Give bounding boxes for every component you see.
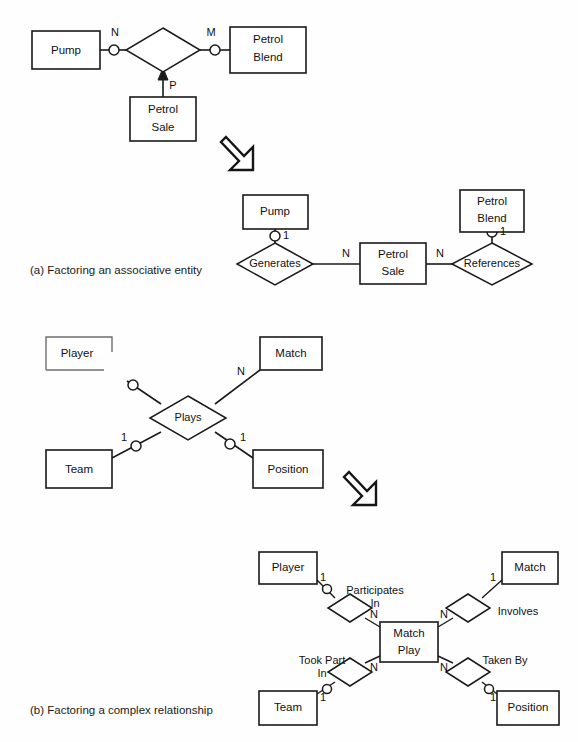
caption-b: (b) Factoring a complex relationship (30, 704, 213, 716)
cardinality-label-1: 1 (490, 571, 496, 583)
relationship-label: Plays (175, 411, 202, 423)
optional-marker-icon (270, 231, 280, 241)
relationship-label: Generates (249, 257, 301, 269)
cardinality-label-n: N (370, 661, 378, 673)
entity-label-line2: Sale (381, 265, 404, 277)
entity-label: Pump (260, 205, 290, 217)
relationship-participates-in: Participates In (328, 584, 404, 622)
entity-label-line2: Blend (477, 212, 506, 224)
diagram-b-before: Plays Player Match Team Position N 1 1 (46, 337, 323, 488)
cardinality-label-n: N (370, 608, 378, 620)
relationship-involves: Involves (446, 594, 539, 622)
relationship-took-part-in: Took Part In (299, 654, 372, 686)
entity-position: Position (497, 691, 559, 725)
cardinality-label-1: 1 (500, 225, 506, 237)
optional-marker-icon (210, 45, 220, 55)
entity-pump: Pump (32, 31, 100, 69)
cardinality-label-n: N (342, 247, 350, 259)
relationship-diamond-unlabeled (126, 28, 200, 72)
relationship-generates: Generates (237, 243, 313, 285)
entity-match: Match (260, 337, 322, 370)
relationship-plays: Plays (150, 396, 226, 440)
cardinality-label-n: N (440, 608, 448, 620)
cardinality-label-n: N (436, 247, 444, 259)
entity-label: Match (275, 347, 306, 359)
entity-match: Match (502, 552, 558, 584)
cardinality-label-1: 1 (320, 571, 326, 583)
optional-marker-icon (109, 45, 119, 55)
entity-label: Match (514, 561, 545, 573)
cardinality-label-1: 1 (490, 691, 496, 703)
cardinality-label-1: 1 (320, 691, 326, 703)
entity-label: Team (274, 701, 302, 713)
entity-petrol-sale: Petrol Sale (130, 97, 196, 141)
entity-match-play: Match Play (380, 622, 438, 662)
entity-label: Player (61, 347, 94, 359)
cardinality-label-n: N (111, 26, 119, 38)
diagram-a-after: Generates References Pump Petrol Blend P… (237, 190, 532, 285)
entity-petrol-sale: Petrol Sale (360, 243, 426, 284)
cardinality-label-n: N (237, 365, 245, 377)
entity-pump: Pump (243, 195, 308, 229)
optional-marker-icon (225, 439, 235, 449)
cardinality-label-1: 1 (283, 229, 289, 241)
relationship-label-line1: Took Part (299, 654, 345, 666)
cardinality-label-m: M (206, 26, 215, 38)
transition-arrow-b (344, 472, 376, 505)
relationship-label: Involves (498, 605, 539, 617)
relationship-label-line1: Participates (346, 584, 404, 596)
down-right-block-arrow-icon (221, 137, 253, 170)
entity-label: Position (268, 463, 309, 475)
entity-team: Team (259, 691, 317, 725)
optional-marker-icon (128, 380, 138, 390)
caption-a: (a) Factoring an associative entity (30, 264, 202, 276)
entity-label-line2: Blend (253, 51, 282, 63)
relationship-references: References (452, 243, 532, 285)
entity-label-line2: Sale (151, 121, 174, 133)
relationship-label-line2: In (317, 667, 326, 679)
entity-label-line1: Petrol (148, 103, 178, 115)
relationship-label: References (464, 257, 521, 269)
entity-label-line2: Play (398, 644, 421, 656)
cardinality-label-1: 1 (240, 431, 246, 443)
entity-label-line1: Petrol (378, 248, 408, 260)
entity-team: Team (46, 450, 112, 488)
entity-label-line1: Petrol (477, 195, 507, 207)
entity-label: Position (508, 701, 549, 713)
entity-petrol-blend: Petrol Blend (230, 27, 306, 73)
optional-marker-icon (323, 585, 332, 594)
entity-label-line1: Petrol (253, 33, 283, 45)
cardinality-label-p: P (169, 79, 176, 91)
entity-label: Player (272, 561, 305, 573)
relationship-label: Taken By (482, 654, 528, 666)
optional-marker-icon (131, 441, 141, 451)
diagram-a-before: Pump Petrol Blend Petrol Sale N M P (32, 26, 306, 141)
cardinality-label-n: N (440, 661, 448, 673)
down-right-block-arrow-icon (344, 472, 376, 505)
relationship-taken-by: Taken By (446, 654, 528, 686)
entity-label-line1: Match (393, 627, 424, 639)
entity-label: Team (65, 463, 93, 475)
entity-player: Player (46, 337, 112, 370)
diagram-b-after: Participates In Involves Took Part In Ta… (259, 552, 559, 725)
er-figure-root: Pump Petrol Blend Petrol Sale N M P (0, 0, 578, 742)
entity-label: Pump (51, 44, 81, 56)
entity-petrol-blend: Petrol Blend (460, 190, 524, 232)
transition-arrow-a (221, 137, 253, 170)
cardinality-label-1: 1 (121, 431, 127, 443)
er-diagram-canvas: Pump Petrol Blend Petrol Sale N M P (0, 0, 578, 742)
entity-player: Player (259, 552, 317, 584)
entity-position: Position (253, 450, 323, 488)
